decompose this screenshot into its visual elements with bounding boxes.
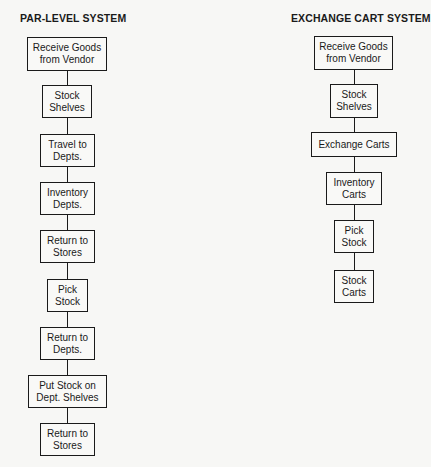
exchange-step-receive-goods: Receive Goods from Vendor [314, 36, 393, 70]
exchange-step-exchange-carts: Exchange Carts [311, 132, 397, 157]
connector [67, 215, 69, 230]
par-step-pick-stock: Pick Stock [47, 279, 88, 312]
par-step-return-to-depts: Return to Depts. [40, 327, 95, 360]
par-step-return-to-stores: Return to Stores [40, 230, 95, 263]
connector [67, 408, 69, 423]
par-step-stock-shelves: Stock Shelves [42, 85, 92, 118]
par-step-put-stock-on-shelves: Put Stock on Dept. Shelves [28, 375, 107, 408]
par-step-inventory-depts: Inventory Depts. [40, 182, 95, 215]
connector [67, 167, 69, 182]
connector [67, 312, 69, 327]
connector [67, 118, 69, 134]
par-step-return-to-stores-final: Return to Stores [40, 423, 95, 456]
exchange-step-inventory-carts: Inventory Carts [326, 172, 382, 205]
connector [67, 360, 69, 375]
exchange-step-stock-shelves: Stock Shelves [330, 84, 378, 118]
connector [354, 70, 356, 84]
par-step-receive-goods: Receive Goods from Vendor [27, 37, 107, 71]
connector [354, 205, 356, 220]
par-step-travel-to-depts: Travel to Depts. [40, 134, 95, 167]
exchange-step-pick-stock: Pick Stock [334, 220, 374, 253]
exchange-step-stock-carts: Stock Carts [334, 270, 374, 303]
connector [67, 71, 69, 85]
connector [67, 263, 69, 279]
connector [354, 157, 356, 172]
par-level-title: PAR-LEVEL SYSTEM [20, 12, 126, 24]
connector [354, 253, 356, 270]
exchange-cart-title: EXCHANGE CART SYSTEM [291, 12, 431, 24]
connector [354, 118, 356, 132]
